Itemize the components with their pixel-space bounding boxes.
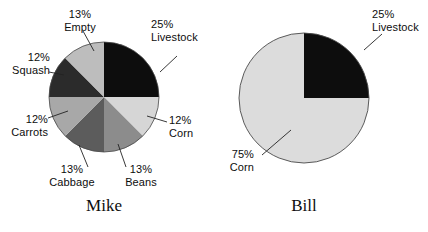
bill-label-livestock: 25% Livestock xyxy=(372,8,428,33)
mike-label-squash-pct: 12% xyxy=(0,51,50,64)
bill-label-livestock-pct: 25% xyxy=(372,8,428,21)
mike-label-cabbage-name: Cabbage xyxy=(36,176,108,189)
mike-caption: Mike xyxy=(64,196,144,216)
leader-line-mike-carrots xyxy=(48,111,68,118)
mike-label-cabbage-pct: 13% xyxy=(36,163,108,176)
mike-label-empty-pct: 13% xyxy=(45,8,115,21)
bill-label-livestock-name: Livestock xyxy=(372,21,428,34)
mike-label-beans-pct: 13% xyxy=(110,163,172,176)
mike-label-empty: 13% Empty xyxy=(45,8,115,33)
mike-label-livestock-name: Livestock xyxy=(151,31,221,44)
mike-label-squash: 12% Squash xyxy=(0,51,50,76)
leader-line-bill-livestock xyxy=(364,34,382,50)
mike-label-carrots: 12% Carrots xyxy=(0,113,48,138)
bill-label-corn-name: Corn xyxy=(206,161,254,174)
mike-label-squash-name: Squash xyxy=(0,64,50,77)
mike-label-livestock-pct: 25% xyxy=(151,18,221,31)
leader-line-mike-livestock xyxy=(160,56,177,72)
leader-line-mike-squash xyxy=(49,72,64,75)
mike-label-beans-name: Beans xyxy=(110,176,172,189)
mike-label-carrots-pct: 12% xyxy=(0,113,48,126)
mike-label-corn-pct: 12% xyxy=(169,114,219,127)
leader-line-mike-empty xyxy=(83,31,94,51)
leader-line-bill-corn xyxy=(262,130,291,155)
dual-pie-chart-figure: 13% Empty 12% Squash 12% Carrots 13% Cab… xyxy=(0,0,428,232)
mike-label-cabbage: 13% Cabbage xyxy=(36,163,108,188)
leader-line-mike-corn xyxy=(147,116,167,122)
bill-caption: Bill xyxy=(266,196,342,216)
bill-label-corn: 75% Corn xyxy=(206,148,254,173)
mike-label-empty-name: Empty xyxy=(45,21,115,34)
mike-label-corn-name: Corn xyxy=(169,127,219,140)
mike-label-livestock: 25% Livestock xyxy=(151,18,221,43)
mike-label-beans: 13% Beans xyxy=(110,163,172,188)
bill-label-corn-pct: 75% xyxy=(206,148,254,161)
mike-label-carrots-name: Carrots xyxy=(0,126,48,139)
mike-label-corn: 12% Corn xyxy=(169,114,219,139)
